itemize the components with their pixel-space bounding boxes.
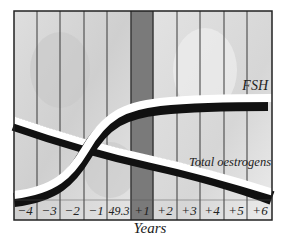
fsh-label: FSH: [241, 78, 269, 93]
tick-label: −2: [64, 203, 80, 218]
tick-label: −3: [41, 203, 57, 218]
tick-label: 49.3: [109, 204, 130, 218]
tick-label: −4: [17, 203, 33, 218]
tick-label: +4: [204, 203, 220, 218]
tick-label: +2: [157, 203, 173, 218]
oestrogens-label: Total oestrogens: [189, 155, 271, 169]
tick-label: +5: [228, 203, 244, 218]
tick-label: +1: [134, 203, 149, 218]
tick-label: +3: [181, 203, 197, 218]
hormone-chart: −4 −3 −2 −1 49.3 +1 +2 +3 +4 +5 +6 FSH T…: [0, 0, 288, 243]
tick-labels: −4 −3 −2 −1 49.3 +1 +2 +3 +4 +5 +6: [17, 203, 268, 218]
tick-label: +6: [252, 203, 268, 218]
x-axis-label: Years: [0, 220, 288, 237]
tick-label: −1: [88, 203, 103, 218]
